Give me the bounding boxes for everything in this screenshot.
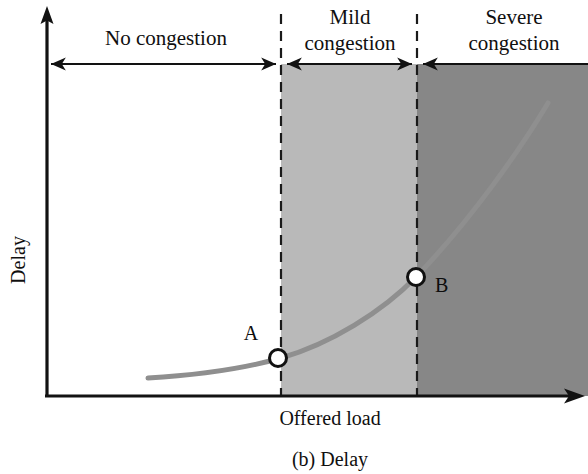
figure-caption: (b) Delay: [292, 448, 368, 471]
region-label-no-congestion: No congestion: [105, 26, 227, 50]
point-label-a: A: [244, 322, 259, 344]
delay-vs-offered-load-figure: A B No congestion Mild congestion Severe…: [0, 0, 588, 474]
region-label-severe-congestion-line2: congestion: [469, 31, 560, 55]
figure-canvas: A B No congestion Mild congestion Severe…: [0, 0, 588, 474]
point-marker-b: [408, 269, 425, 286]
region-label-severe-congestion-line1: Severe: [485, 5, 542, 29]
y-axis-title: Delay: [7, 236, 30, 284]
point-label-b: B: [435, 274, 448, 296]
region-severe-congestion: [417, 64, 588, 396]
point-marker-a: [270, 350, 287, 367]
region-label-mild-congestion-line2: congestion: [305, 31, 396, 55]
x-axis-title: Offered load: [279, 407, 380, 429]
region-mild-congestion: [281, 64, 417, 396]
region-no-congestion: [48, 64, 281, 396]
region-label-mild-congestion-line1: Mild: [330, 5, 371, 29]
